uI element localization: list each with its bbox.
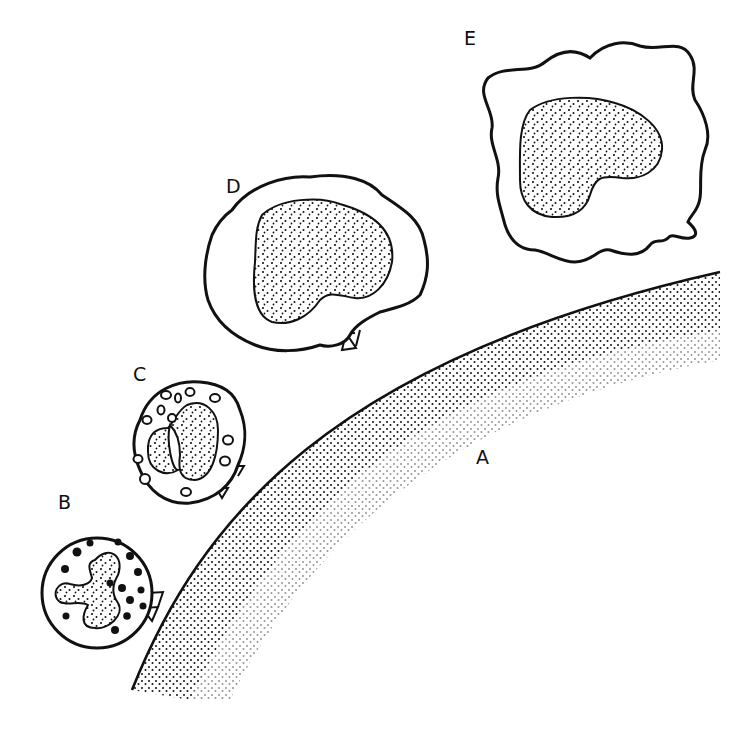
label-A: A <box>476 448 489 467</box>
label-B: B <box>58 493 71 512</box>
label-C: C <box>133 365 146 384</box>
label-E: E <box>464 29 476 48</box>
diagram-canvas: A B C D E <box>0 0 737 730</box>
diagram-svg <box>0 0 737 730</box>
label-D: D <box>226 177 241 196</box>
cell-E <box>484 43 708 262</box>
cell-C <box>134 382 245 503</box>
